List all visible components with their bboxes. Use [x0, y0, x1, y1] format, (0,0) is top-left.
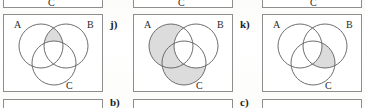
item-label-c: c) [240, 97, 249, 108]
top-fragment-2-label-c: C [178, 0, 185, 8]
venn-1-label-b: B [87, 20, 94, 30]
venn-2-label-b: B [217, 20, 224, 30]
venn-2-label-c: C [196, 81, 203, 91]
top-fragment-1-label-c: C [48, 0, 55, 8]
venn-panel-2: A B C [133, 14, 233, 92]
venn-3-label-a: A [273, 20, 280, 30]
item-label-k: k) [240, 19, 250, 30]
venn-1-label-c: C [66, 81, 73, 91]
top-fragment-3-label-c: C [310, 0, 317, 8]
venn-panel-3: A B C [262, 14, 362, 92]
bottom-fragment-panel-2 [133, 99, 233, 108]
venn-panel-1: A B C [3, 14, 103, 92]
venn-2-label-a: A [144, 20, 151, 30]
bottom-fragment-panel-1 [3, 99, 103, 108]
item-label-j: j) [110, 19, 117, 30]
venn-3-label-c: C [325, 81, 332, 91]
item-label-b: b) [110, 97, 120, 108]
venn-3-label-b: B [346, 20, 353, 30]
venn-1-label-a: A [14, 20, 21, 30]
bottom-fragment-panel-3 [262, 99, 362, 108]
